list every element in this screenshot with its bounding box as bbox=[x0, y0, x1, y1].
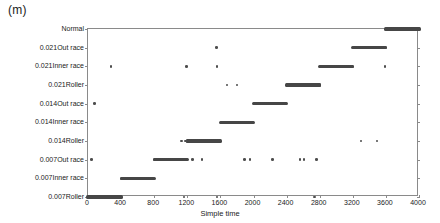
y-tick-label-0-007inner-race: 0.007Inner race bbox=[35, 174, 84, 181]
y-tick-label-normal: Normal bbox=[61, 25, 84, 32]
x-tick-label-4000: 4000 bbox=[410, 199, 426, 206]
x-tick-label-400: 400 bbox=[114, 199, 126, 206]
y-tick-label-0-021out-race: 0.021Out race bbox=[40, 43, 84, 50]
x-tick-label-1200: 1200 bbox=[179, 199, 195, 206]
x-tick-label-3600: 3600 bbox=[377, 199, 393, 206]
y-tick-label-0-014roller: 0.014Roller bbox=[48, 137, 84, 144]
x-tick-label-800: 800 bbox=[147, 199, 159, 206]
x-tick-label-2400: 2400 bbox=[278, 199, 294, 206]
x-tick-label-1600: 1600 bbox=[212, 199, 228, 206]
x-tick-label-0: 0 bbox=[85, 199, 89, 206]
x-axis-tick-labels: 040080012001600200024002800320036004000 bbox=[87, 0, 418, 223]
x-tick-label-3200: 3200 bbox=[344, 199, 360, 206]
y-axis-labels: Normal0.021Out race0.021Inner race0.021R… bbox=[0, 0, 84, 223]
y-tick-label-0-021roller: 0.021Roller bbox=[48, 81, 84, 88]
y-tick-label-0-021inner-race: 0.021Inner race bbox=[35, 62, 84, 69]
x-tick-mark bbox=[419, 195, 420, 198]
x-tick-label-2000: 2000 bbox=[245, 199, 261, 206]
x-axis-title: Simple time bbox=[0, 209, 440, 218]
y-tick-label-0-007roller: 0.007Roller bbox=[48, 193, 84, 200]
x-tick-label-2800: 2800 bbox=[311, 199, 327, 206]
chart-figure: (m) Normal0.021Out race0.021Inner race0.… bbox=[0, 0, 440, 223]
y-tick-label-0-014inner-race: 0.014Inner race bbox=[35, 118, 84, 125]
y-tick-label-0-014out-race: 0.014Out race bbox=[40, 99, 84, 106]
y-tick-label-0-007out-race: 0.007Out race bbox=[40, 155, 84, 162]
